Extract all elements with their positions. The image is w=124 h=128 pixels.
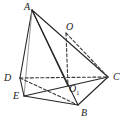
edge-O-C (66, 33, 108, 77)
geometry-figure: AOCDO1EB (0, 0, 124, 128)
edge-A-O1 (32, 10, 68, 86)
vertex-label-e: E (13, 91, 19, 101)
vertex-label-c: C (113, 72, 120, 82)
vertex-label-text: D (4, 72, 11, 83)
vertex-label-b: B (81, 108, 87, 118)
vertex-label-text: O (66, 21, 73, 32)
figure-canvas (0, 0, 124, 128)
edge-layer (20, 10, 108, 105)
vertex-label-a: A (24, 2, 30, 12)
vertex-label-text: A (24, 1, 30, 12)
vertex-label-subscript: 1 (76, 90, 79, 96)
vertex-label-text: E (13, 90, 19, 101)
vertex-label-o: O (66, 22, 73, 32)
edge-D-C (20, 77, 108, 78)
edge-A-D (20, 10, 32, 78)
vertex-label-o1: O1 (69, 84, 79, 96)
vertex-label-text: B (81, 107, 87, 118)
vertex-label-text: C (113, 71, 120, 82)
edge-B-C (78, 77, 108, 105)
vertex-label-d: D (4, 73, 11, 83)
edge-E-B (24, 96, 78, 105)
edge-D-E (20, 78, 24, 96)
